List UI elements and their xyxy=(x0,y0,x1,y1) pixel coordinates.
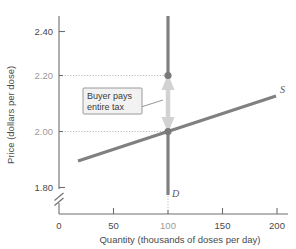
callout-line-1: Buyer pays xyxy=(87,91,133,101)
x-tick-label-200: 200 xyxy=(269,220,285,231)
demand-curve-label: D xyxy=(171,188,180,199)
x-tick-label-150: 150 xyxy=(215,220,231,231)
x-tick-label-100: 100 xyxy=(160,220,176,231)
callout-line-2: entire tax xyxy=(87,102,125,112)
point-price-with-tax xyxy=(164,72,171,79)
tax-wedge-arrow xyxy=(162,74,175,133)
callout-buyer-pays-entire-tax: Buyer pays entire tax xyxy=(83,88,163,114)
y-tick-label-220: 2.20 xyxy=(35,70,54,81)
callout-leader-line xyxy=(141,100,163,107)
point-price-no-tax xyxy=(164,128,171,135)
y-axis-title: Price (dollars per dose) xyxy=(5,66,16,164)
y-tick-label-180: 1.80 xyxy=(35,182,54,193)
y-tick-label-200: 2.00 xyxy=(35,126,54,137)
supply-curve-label: S xyxy=(280,84,285,95)
chart-canvas: 2.40 2.20 2.00 1.80 0 50 100 150 200 Pri… xyxy=(0,0,296,249)
x-tick-label-50: 50 xyxy=(108,220,119,231)
x-tick-label-0: 0 xyxy=(56,220,61,231)
y-tick-label-240: 2.40 xyxy=(35,26,54,37)
tax-incidence-chart: 2.40 2.20 2.00 1.80 0 50 100 150 200 Pri… xyxy=(0,0,296,249)
x-axis-title: Quantity (thousands of doses per day) xyxy=(99,234,260,245)
